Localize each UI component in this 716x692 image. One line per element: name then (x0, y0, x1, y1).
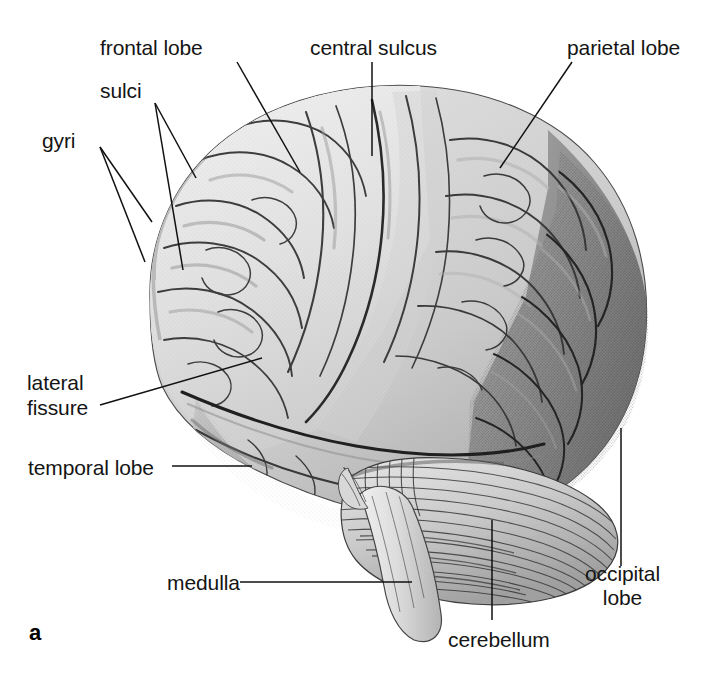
label-gyri: gyri (42, 129, 75, 152)
label-lateral-fissure-line1: lateral (27, 371, 84, 394)
label-parietal-lobe: parietal lobe (567, 36, 680, 59)
label-cerebellum: cerebellum (448, 628, 550, 651)
brain-figure: frontal lobe sulci gyri central sulcus p… (0, 0, 716, 692)
label-medulla: medulla (167, 571, 240, 594)
panel-letter: a (29, 620, 41, 646)
label-sulci: sulci (100, 79, 142, 102)
label-central-sulcus: central sulcus (310, 36, 437, 59)
label-temporal-lobe: temporal lobe (28, 456, 154, 479)
label-frontal-lobe: frontal lobe (100, 36, 203, 59)
label-occipital-lobe-line2: lobe (570, 586, 675, 609)
label-occipital-lobe-line1: occipital (570, 562, 675, 585)
label-lateral-fissure-line2: fissure (27, 396, 88, 419)
